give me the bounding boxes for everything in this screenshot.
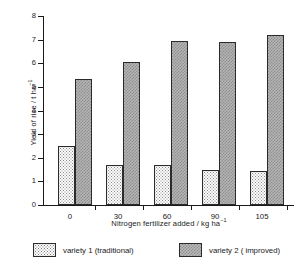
bar-variety2-3	[219, 42, 236, 205]
bar-variety1-2	[154, 165, 171, 205]
legend-swatch-variety1-icon	[33, 243, 56, 257]
plot-area: 0 1 2 3 4 5 6 7 8 0 30 60 90 105	[43, 16, 293, 205]
legend-entry-variety2: variety 2 ( improved)	[179, 243, 280, 257]
legend-label-variety1: variety 1 (traditional)	[63, 246, 134, 255]
x-axis-title-text: Nitrogen fertilizer added / kg ha	[111, 219, 220, 228]
bar-variety2-0	[75, 79, 92, 205]
y-tick-label: 4	[23, 107, 36, 115]
x-axis-title: Nitrogen fertilizer added / kg ha−1	[43, 219, 295, 228]
y-tick-mark	[38, 40, 43, 41]
y-tick-label: 1	[23, 177, 36, 185]
x-tick-mark	[143, 206, 144, 210]
y-tick-label: 8	[23, 12, 36, 20]
y-tick-mark	[38, 87, 43, 88]
x-axis-title-exponent: −1	[220, 217, 226, 223]
bar-variety2-2	[171, 41, 188, 205]
legend-entry-variety1: variety 1 (traditional)	[33, 243, 134, 257]
y-tick-mark	[38, 16, 43, 17]
x-tick-mark	[287, 206, 288, 210]
x-axis-line	[43, 205, 294, 206]
bar-variety1-1	[106, 165, 123, 205]
y-tick-mark	[38, 205, 43, 206]
x-tick-mark	[239, 206, 240, 210]
bar-variety1-3	[202, 170, 219, 205]
y-tick-mark	[38, 134, 43, 135]
bar-variety1-4	[250, 171, 267, 205]
legend-label-variety2: variety 2 ( improved)	[209, 246, 280, 255]
chart-legend: variety 1 (traditional) variety 2 ( impr…	[33, 243, 293, 267]
y-tick-label: 0	[23, 201, 36, 209]
y-tick-label: 6	[23, 59, 36, 67]
y-tick-mark	[38, 111, 43, 112]
legend-swatch-variety2-icon	[179, 243, 202, 257]
y-tick-mark	[38, 158, 43, 159]
y-tick-label: 2	[23, 154, 36, 162]
y-tick-label: 7	[23, 36, 36, 44]
y-tick-label: 5	[23, 83, 36, 91]
y-tick-mark	[38, 181, 43, 182]
bar-chart-figure: Yield of rice / t ha−1 0 1 2 3 4 5 6 7 8…	[0, 0, 308, 278]
y-axis-line	[43, 16, 44, 206]
y-tick-label: 3	[23, 130, 36, 138]
bar-variety1-0	[58, 146, 75, 205]
x-tick-mark	[191, 206, 192, 210]
bar-variety2-4	[267, 35, 284, 205]
x-tick-mark	[95, 206, 96, 210]
y-tick-mark	[38, 63, 43, 64]
bar-variety2-1	[123, 62, 140, 205]
